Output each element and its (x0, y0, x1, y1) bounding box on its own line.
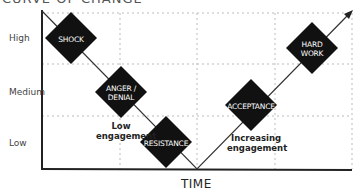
stage-label: ACCEPTANCE (227, 102, 274, 111)
stage-label-line1: ANGER / (106, 84, 136, 93)
stage-label-line1: HARD (301, 40, 324, 49)
annotation-line1: Increasing (227, 133, 285, 143)
stage-diamonds (45, 12, 338, 168)
stage-shock: SHOCK (58, 35, 83, 44)
annotation-line1: Low (96, 121, 146, 131)
y-level-high: High (9, 33, 30, 43)
annotation-increasing-engagement: Increasing engagement (227, 133, 285, 153)
y-level-medium: Medium (9, 87, 45, 97)
change-curve-diagram: CURVE OF CHANGE High (0, 0, 360, 196)
y-level-low: Low (9, 138, 27, 148)
stage-hard-work: HARD WORK (301, 40, 324, 58)
stage-label-line2: WORK (301, 49, 324, 58)
stage-acceptance: ACCEPTANCE (227, 102, 274, 111)
annotation-line2: engagement (96, 131, 146, 141)
diagram-canvas (0, 0, 360, 196)
annotation-low-engagement: Low engagement (96, 121, 146, 141)
stage-anger-denial: ANGER / DENIAL (106, 84, 136, 102)
stage-label: SHOCK (58, 35, 83, 44)
x-axis-label: TIME (181, 177, 212, 191)
annotation-line2: engagement (227, 143, 285, 153)
stage-label-line2: DENIAL (106, 93, 136, 102)
